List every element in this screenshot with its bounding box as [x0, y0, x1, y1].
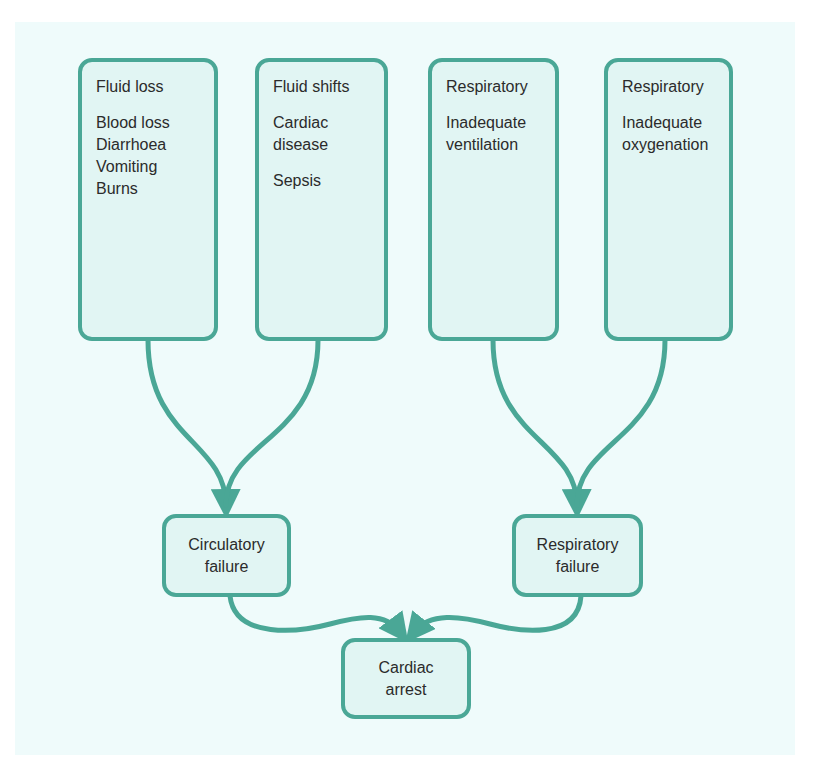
cause-item: oxygenation: [622, 134, 729, 156]
node-label-line: arrest: [386, 679, 427, 701]
cause-item: Blood loss: [96, 112, 214, 134]
respiratory-failure-box: Respiratory failure: [512, 514, 643, 597]
cause-item: ventilation: [446, 134, 555, 156]
cause-box-fluid-loss: Fluid loss Blood loss Diarrhoea Vomiting…: [78, 58, 218, 341]
cause-box-inadequate-oxygenation: Respiratory Inadequate oxygenation: [604, 58, 733, 341]
cause-box-inadequate-ventilation: Respiratory Inadequate ventilation: [428, 58, 559, 341]
node-label-line: Respiratory: [537, 534, 619, 556]
cause-title: Respiratory: [622, 76, 729, 98]
cause-box-fluid-shifts: Fluid shifts Cardiac disease Sepsis: [255, 58, 388, 341]
node-label-line: Circulatory: [188, 534, 264, 556]
cause-item: Inadequate: [622, 112, 729, 134]
node-label-line: failure: [556, 556, 600, 578]
circulatory-failure-box: Circulatory failure: [162, 514, 291, 597]
cause-item: Cardiac: [273, 112, 384, 134]
cause-title: Respiratory: [446, 76, 555, 98]
cause-item: Vomiting: [96, 156, 214, 178]
cause-item: Sepsis: [273, 170, 384, 192]
cause-title: Fluid shifts: [273, 76, 384, 98]
node-label-line: Cardiac: [378, 657, 433, 679]
cause-title: Fluid loss: [96, 76, 214, 98]
cause-item: Diarrhoea: [96, 134, 214, 156]
spacer: [273, 156, 384, 170]
cause-item: Inadequate: [446, 112, 555, 134]
node-label-line: failure: [205, 556, 249, 578]
cardiac-arrest-box: Cardiac arrest: [341, 638, 471, 719]
cause-item: Burns: [96, 178, 214, 200]
cause-item: disease: [273, 134, 384, 156]
